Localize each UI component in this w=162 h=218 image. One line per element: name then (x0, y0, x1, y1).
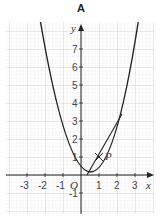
diagram: A -3 -2 -1 1 2 3 O (0, 0, 162, 218)
x-tick-label: -3 (20, 180, 29, 191)
y-tick-label: 4 (72, 98, 78, 109)
y-tick-label: 7 (72, 44, 78, 55)
y-tick-label: -1 (69, 188, 78, 199)
x-tick-label: 3 (132, 180, 138, 191)
y-axis-label: y (70, 22, 76, 34)
y-tick-label: 3 (72, 116, 78, 127)
x-tick-label: 2 (114, 180, 120, 191)
y-tick-label: 5 (72, 80, 78, 91)
graph: -3 -2 -1 1 2 3 O x y -1 1 2 3 4 5 6 7 P (0, 0, 162, 218)
x-tick-label: -1 (56, 180, 65, 191)
x-tick-label: 1 (96, 180, 102, 191)
y-tick-label: 2 (72, 134, 78, 145)
point-p-label: P (104, 150, 112, 162)
x-axis-label: x (145, 179, 151, 191)
y-tick-label: 6 (72, 62, 78, 73)
x-tick-label: -2 (38, 180, 47, 191)
